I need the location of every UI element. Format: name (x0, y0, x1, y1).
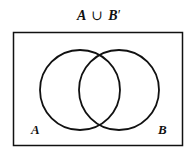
set-a-circle (40, 50, 120, 130)
set-b-label: B (157, 122, 167, 137)
set-a-label: A (30, 122, 40, 137)
diagram-title: A ∪ B′ (76, 8, 121, 23)
venn-diagram: A ∪ B′ A B (0, 0, 186, 151)
set-b-circle (79, 50, 159, 130)
